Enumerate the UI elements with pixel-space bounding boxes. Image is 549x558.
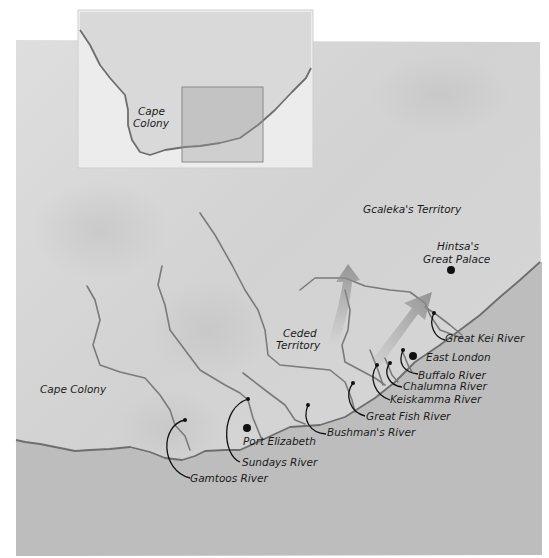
label-ceded-line2: Territory — [276, 339, 321, 351]
label-sundays-river: Sundays River — [242, 456, 318, 468]
label-port-elizabeth: Port Elizabeth — [243, 435, 316, 447]
label-ceded-line1: Ceded — [283, 327, 317, 339]
label-keiskamma-river: Keiskamma River — [390, 393, 482, 405]
label-bushmans-river: Bushman's River — [327, 426, 416, 438]
label-east-london: East London — [426, 351, 491, 363]
label-gamtoos-river: Gamtoos River — [190, 472, 268, 484]
inset-map: Cape Colony — [78, 10, 313, 168]
inset-label-cape-line1: Cape — [138, 105, 165, 117]
hintsa-palace-marker — [447, 266, 455, 274]
label-cape-colony: Cape Colony — [40, 383, 107, 395]
label-chalumna-river: Chalumna River — [403, 380, 488, 392]
port-elizabeth-marker — [243, 424, 251, 432]
east-london-marker — [409, 352, 417, 360]
label-hintsa-line1: Hintsa's — [437, 240, 479, 252]
inset-label-cape-line2: Colony — [133, 117, 170, 129]
inset-highlight-box — [182, 87, 263, 162]
label-great-kei-river: Great Kei River — [445, 332, 525, 344]
historical-map: Gcaleka's Territory Hintsa's Great Palac… — [0, 0, 549, 558]
label-gcaleka-territory: Gcaleka's Territory — [363, 203, 462, 215]
label-hintsa-line2: Great Palace — [423, 253, 490, 265]
label-great-fish-river: Great Fish River — [366, 410, 451, 422]
